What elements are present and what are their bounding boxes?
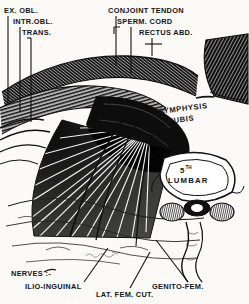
vertebra-ordinal-suffix: TH bbox=[185, 165, 191, 170]
label-sperm-cord: SPERM. CORD bbox=[117, 18, 172, 25]
dissection-illustration bbox=[0, 0, 249, 304]
label-vertebra-name: LUMBAR bbox=[168, 177, 208, 185]
label-ilio-inguinal: ILIO-INGUINAL bbox=[25, 283, 81, 290]
label-trans: TRANS. bbox=[22, 29, 51, 36]
label-intr-obl: INTR.OBL. bbox=[13, 18, 53, 25]
label-nerves-heading: NERVES :- bbox=[11, 270, 51, 277]
label-vertebra-ordinal: 5TH bbox=[180, 166, 192, 174]
label-ex-obl: EX. OBL. bbox=[4, 7, 38, 14]
label-genito-fem: GENITO-FEM. bbox=[152, 283, 204, 290]
label-rectus-abd: RECTUS ABD. bbox=[139, 29, 193, 36]
anatomical-plate: EX. OBL. INTR.OBL. TRANS. CONJOINT TENDO… bbox=[0, 0, 249, 304]
label-lat-fem-cut: LAT. FEM. CUT. bbox=[96, 291, 153, 298]
label-conjoint-tendon: CONJOINT TENDON bbox=[108, 7, 184, 14]
